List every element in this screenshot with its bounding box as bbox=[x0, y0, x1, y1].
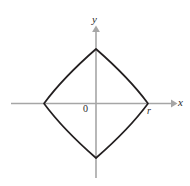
x-intercept-label-r: r bbox=[147, 106, 151, 116]
y-axis-label: y bbox=[92, 14, 97, 25]
x-axis-label: x bbox=[178, 97, 183, 108]
x-axis-arrowhead bbox=[171, 100, 178, 108]
astroid-plot-svg bbox=[0, 0, 190, 186]
astroid-figure: y x r 0 bbox=[0, 0, 190, 186]
x-axis-group bbox=[11, 100, 178, 108]
y-axis-arrowhead bbox=[92, 26, 100, 33]
origin-label: 0 bbox=[83, 104, 88, 114]
